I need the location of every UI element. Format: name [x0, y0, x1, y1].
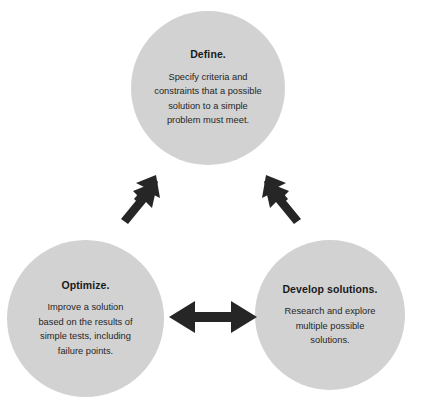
- process-node-optimize-title: Optimize.: [61, 279, 109, 292]
- process-node-develop-solutions: Develop solutions. Research and explore …: [255, 240, 405, 390]
- process-node-define-body: Specify criteria and constraints that a …: [140, 70, 276, 128]
- double-headed-arrow-diagonal-icon: [252, 162, 314, 238]
- process-node-define-title: Define.: [190, 48, 226, 61]
- design-process-diagram: Define. Specify criteria and constraints…: [0, 0, 424, 407]
- process-node-develop-solutions-title: Develop solutions.: [282, 283, 377, 296]
- double-headed-arrow-horizontal-icon: [165, 295, 261, 339]
- double-headed-arrow-diagonal-icon: [108, 162, 170, 238]
- process-node-define: Define. Specify criteria and constraints…: [131, 11, 285, 165]
- process-node-develop-solutions-body: Research and explore multiple possible s…: [274, 304, 387, 347]
- process-node-optimize: Optimize. Improve a solution based on th…: [7, 240, 164, 397]
- process-node-optimize-body: Improve a solution based on the results …: [27, 300, 143, 358]
